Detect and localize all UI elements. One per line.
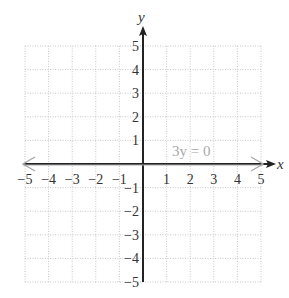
x-tick-label: −4 xyxy=(41,172,56,187)
x-tick-labels: −5−4−3−2−112345 xyxy=(18,172,265,187)
x-tick-label: 4 xyxy=(234,172,241,187)
y-tick-label: 4 xyxy=(132,63,139,78)
y-tick-label: −5 xyxy=(124,275,139,290)
x-tick-label: −2 xyxy=(88,172,103,187)
axes xyxy=(23,26,276,282)
x-tick-label: 2 xyxy=(187,172,194,187)
y-tick-label: −2 xyxy=(124,204,139,219)
y-tick-label: 3 xyxy=(132,86,139,101)
y-tick-label: −3 xyxy=(124,228,139,243)
equation-label: 3y = 0 xyxy=(172,143,210,159)
y-tick-label: 5 xyxy=(132,39,139,54)
y-tick-label: 2 xyxy=(132,110,139,125)
x-axis-label: x xyxy=(276,156,284,172)
x-tick-label: 1 xyxy=(163,172,170,187)
y-tick-label: −1 xyxy=(124,181,139,196)
y-tick-label: 1 xyxy=(132,133,139,148)
x-tick-label: 3 xyxy=(210,172,217,187)
coordinate-plane: −5−4−3−2−112345 54321−1−2−3−4−5 x y 3y =… xyxy=(0,0,289,298)
x-tick-label: −3 xyxy=(65,172,80,187)
x-tick-label: −5 xyxy=(18,172,33,187)
x-tick-label: 5 xyxy=(258,172,265,187)
y-axis-label: y xyxy=(136,9,145,25)
y-tick-label: −4 xyxy=(124,251,139,266)
